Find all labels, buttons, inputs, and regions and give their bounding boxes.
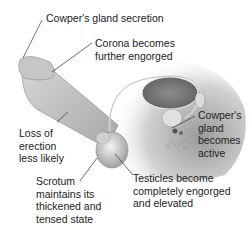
testicle <box>96 132 128 168</box>
label-cowpers-gland-active: Cowper's gland becomes active <box>198 109 241 159</box>
label-corona: Corona becomes further engorged <box>95 37 175 62</box>
label-cowpers-gland-secretion: Cowper's gland secretion <box>46 12 164 25</box>
bladder <box>142 77 198 109</box>
label-loss-of-erection: Loss of erection less likely <box>19 127 64 165</box>
label-scrotum: Scrotum maintains its thickened and tens… <box>36 175 101 225</box>
label-testicles: Testicles become completely engorged and… <box>133 172 230 210</box>
